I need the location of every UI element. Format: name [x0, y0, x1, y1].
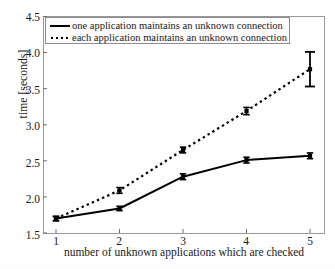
legend-item: each application maintains an unknown co…	[49, 31, 287, 44]
legend-item-label: each application maintains an unknown co…	[72, 32, 287, 43]
axis-ticks	[43, 17, 310, 234]
axis-frame	[44, 17, 325, 234]
legend: one application maintains an unknown con…	[45, 17, 290, 44]
legend-dotted-line-icon	[49, 33, 71, 43]
chart-figure: time [seconds] 4.5 4.0 3.5 3.0 2.5 2.0 1…	[0, 0, 335, 269]
legend-solid-line-icon	[49, 21, 71, 31]
legend-item-label: one application maintains an unknown con…	[72, 20, 283, 31]
data-series-layer	[53, 52, 315, 221]
